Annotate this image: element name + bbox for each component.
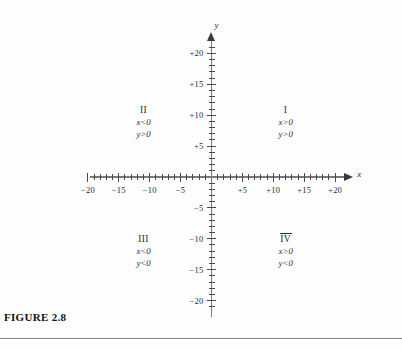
y-axis-major-tick xyxy=(207,146,216,147)
y-axis-tick-label: +5 xyxy=(194,141,203,151)
quadrant-x-condition: x<0 xyxy=(109,246,179,258)
y-axis-minor-tick xyxy=(209,214,215,215)
x-axis-minor-tick xyxy=(248,174,249,180)
quadrant-y-condition: y>0 xyxy=(109,129,179,141)
y-axis-minor-tick xyxy=(209,90,215,91)
y-axis-minor-tick xyxy=(209,282,215,283)
x-axis-tick-label: −10 xyxy=(143,185,157,195)
y-axis-minor-tick xyxy=(209,195,215,196)
quadrant-iv-annotation: IVx>0y<0 xyxy=(251,228,321,269)
quadrant-ii-annotation: IIx<0y>0 xyxy=(109,99,179,140)
y-axis-minor-tick xyxy=(209,139,215,140)
x-axis-minor-tick xyxy=(106,174,107,180)
x-axis-tick-label: +5 xyxy=(238,185,247,195)
y-axis-label: y xyxy=(215,20,219,30)
y-axis-minor-tick xyxy=(209,226,215,227)
y-axis-minor-tick xyxy=(209,244,215,245)
quadrant-numeral-text: I xyxy=(284,105,288,115)
y-axis-major-tick xyxy=(207,300,216,301)
x-axis-minor-tick xyxy=(230,174,231,180)
x-axis-minor-tick xyxy=(143,174,144,180)
y-axis-minor-tick xyxy=(209,232,215,233)
x-axis-major-tick xyxy=(304,173,305,182)
x-axis-minor-tick xyxy=(254,174,255,180)
y-axis-major-tick xyxy=(207,115,216,116)
x-axis-arrow-icon xyxy=(344,173,353,181)
figure-caption: FIGURE 2.8 xyxy=(4,311,66,323)
y-axis-minor-tick xyxy=(209,275,215,276)
quadrant-numeral-text: III xyxy=(138,234,149,244)
x-axis-minor-tick xyxy=(285,174,286,180)
x-axis-minor-tick xyxy=(298,174,299,180)
x-axis-minor-tick xyxy=(186,174,187,180)
x-axis-tick-label: +10 xyxy=(266,185,280,195)
x-axis-major-tick xyxy=(87,173,88,182)
y-axis-minor-tick xyxy=(209,127,215,128)
y-axis-minor-tick xyxy=(209,189,215,190)
x-axis-minor-tick xyxy=(100,174,101,180)
x-axis-minor-tick xyxy=(322,174,323,180)
y-axis-minor-tick xyxy=(209,183,215,184)
quadrant-y-condition: y<0 xyxy=(251,258,321,270)
x-axis-minor-tick xyxy=(223,174,224,180)
y-axis-major-tick xyxy=(207,207,216,208)
y-axis-minor-tick xyxy=(209,158,215,159)
x-axis-tick-label: +15 xyxy=(297,185,311,195)
y-axis-arrow-icon xyxy=(207,32,215,41)
y-axis-tick-label: +15 xyxy=(190,79,204,89)
y-axis-minor-tick xyxy=(209,121,215,122)
quadrant-x-condition: x>0 xyxy=(251,117,321,129)
y-axis-minor-tick xyxy=(209,65,215,66)
quadrant-iii-annotation: IIIx<0y<0 xyxy=(109,228,179,269)
y-axis-minor-tick xyxy=(209,201,215,202)
x-axis-minor-tick xyxy=(192,174,193,180)
y-axis-minor-tick xyxy=(209,288,215,289)
y-axis-minor-tick xyxy=(209,59,215,60)
y-axis-tick-label: −5 xyxy=(194,203,203,213)
x-axis-minor-tick xyxy=(155,174,156,180)
bottom-divider xyxy=(0,338,402,339)
y-axis-minor-tick xyxy=(209,78,215,79)
y-axis-tick-label: −20 xyxy=(190,296,204,306)
y-axis-minor-tick xyxy=(209,102,215,103)
y-axis-minor-tick xyxy=(209,71,215,72)
coordinate-plane-plot: x y −20−15−10−5+5+10+15+20+20+15+10+5−5−… xyxy=(0,0,402,320)
x-axis-minor-tick xyxy=(205,174,206,180)
x-axis-minor-tick xyxy=(217,174,218,180)
y-axis-minor-tick xyxy=(209,257,215,258)
quadrant-x-condition: x>0 xyxy=(251,246,321,258)
y-axis-tick-label: +20 xyxy=(190,48,204,58)
x-axis-tick-label: −5 xyxy=(176,185,185,195)
y-axis-minor-tick xyxy=(209,220,215,221)
quadrant-numeral: II xyxy=(109,99,179,117)
y-axis-minor-tick xyxy=(209,170,215,171)
y-axis-minor-tick xyxy=(209,152,215,153)
quadrant-y-condition: y<0 xyxy=(109,258,179,270)
y-axis-minor-tick xyxy=(209,263,215,264)
x-axis-minor-tick xyxy=(94,174,95,180)
quadrant-x-condition: x<0 xyxy=(109,117,179,129)
x-axis-minor-tick xyxy=(291,174,292,180)
y-axis-minor-tick xyxy=(209,96,215,97)
x-axis-minor-tick xyxy=(316,174,317,180)
y-axis-minor-tick xyxy=(209,294,215,295)
x-axis-major-tick xyxy=(335,173,336,182)
x-axis-minor-tick xyxy=(199,174,200,180)
x-axis-major-tick xyxy=(180,173,181,182)
x-axis-minor-tick xyxy=(112,174,113,180)
quadrant-numeral-text: II xyxy=(140,105,147,115)
x-axis-minor-tick xyxy=(279,174,280,180)
x-axis-minor-tick xyxy=(168,174,169,180)
x-axis-minor-tick xyxy=(124,174,125,180)
x-axis-major-tick xyxy=(242,173,243,182)
x-axis-minor-tick xyxy=(236,174,237,180)
x-axis-minor-tick xyxy=(310,174,311,180)
y-axis-major-tick xyxy=(207,84,216,85)
quadrant-numeral-text: IV xyxy=(280,233,292,245)
y-axis-major-tick xyxy=(207,53,216,54)
x-axis-major-tick xyxy=(118,173,119,182)
x-axis-tick-label: −20 xyxy=(81,185,95,195)
x-axis-minor-tick xyxy=(328,174,329,180)
y-axis-tick-label: −15 xyxy=(190,265,204,275)
x-axis-major-tick xyxy=(149,173,150,182)
